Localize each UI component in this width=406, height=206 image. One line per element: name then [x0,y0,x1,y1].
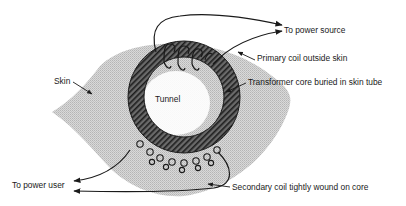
label-to-power-user: To power user [12,181,65,189]
label-to-power-source: To power source [284,26,345,34]
label-skin: Skin [54,77,70,85]
label-transformer-core: Transformer core buried in skin tube [248,78,382,86]
label-secondary-coil: Secondary coil tightly wound on core [232,183,368,191]
label-primary-coil: Primary coil outside skin [257,54,347,62]
label-tunnel: Tunnel [155,95,180,103]
